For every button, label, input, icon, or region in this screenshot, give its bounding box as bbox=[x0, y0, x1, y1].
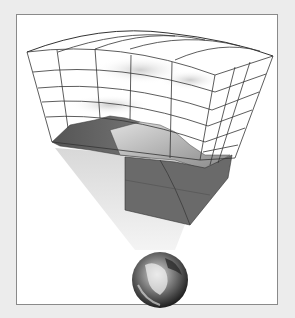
cloud bbox=[70, 95, 150, 115]
climate-grid-illustration bbox=[0, 0, 295, 318]
